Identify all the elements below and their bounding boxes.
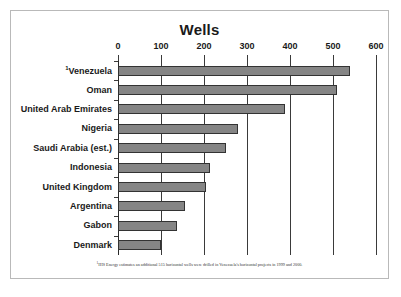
x-tick-label-400: 400	[282, 41, 297, 51]
gridline-600	[376, 61, 377, 255]
category-tick	[114, 61, 118, 62]
bar	[118, 104, 285, 114]
x-tick-mark-600	[376, 55, 377, 61]
bar	[118, 124, 238, 134]
bar	[118, 221, 177, 231]
bar	[118, 143, 226, 153]
bar-row: Indonesia	[118, 158, 376, 177]
x-tick-label-600: 600	[368, 41, 383, 51]
plot-area: 0100200300400500600 1VenezuelaOmanUnited…	[118, 61, 376, 255]
bar-rows: 1VenezuelaOmanUnited Arab EmiratesNigeri…	[118, 61, 376, 255]
category-footnote-marker: 1	[65, 65, 68, 71]
chart-footnote: 1IHS Energy estimates an additional 515 …	[11, 261, 388, 267]
bar-row: Argentina	[118, 197, 376, 216]
bar	[118, 201, 185, 211]
bar-row: Nigeria	[118, 119, 376, 138]
chart-title: Wells	[11, 21, 388, 38]
category-tick	[114, 177, 118, 178]
category-tick	[114, 80, 118, 81]
category-label: United Arab Emirates	[21, 105, 112, 114]
bar	[118, 182, 206, 192]
category-label: 1Venezuela	[65, 65, 112, 76]
footnote-text: IHS Energy estimates an additional 515 h…	[98, 262, 302, 267]
category-label: Argentina	[70, 202, 112, 211]
category-tick	[114, 197, 118, 198]
category-tick	[114, 216, 118, 217]
category-label: Denmark	[73, 241, 112, 250]
category-tick	[114, 139, 118, 140]
bar-row: United Arab Emirates	[118, 100, 376, 119]
x-tick-label-300: 300	[239, 41, 254, 51]
bar-row: United Kingdom	[118, 177, 376, 196]
bar-row: Oman	[118, 80, 376, 99]
bar-row: Saudi Arabia (est.)	[118, 139, 376, 158]
bar	[118, 85, 337, 95]
category-tick	[114, 100, 118, 101]
x-tick-label-500: 500	[325, 41, 340, 51]
category-label: Gabon	[84, 221, 113, 230]
bar	[118, 66, 350, 76]
category-label: Indonesia	[70, 163, 112, 172]
category-label: Saudi Arabia (est.)	[33, 144, 112, 153]
category-tick	[114, 119, 118, 120]
category-label: United Kingdom	[43, 183, 113, 192]
category-tick	[114, 236, 118, 237]
x-tick-label-200: 200	[196, 41, 211, 51]
bar-row: Gabon	[118, 216, 376, 235]
bar	[118, 240, 161, 250]
category-label: Oman	[86, 86, 112, 95]
category-label: Nigeria	[81, 124, 112, 133]
bar-row: 1Venezuela	[118, 61, 376, 80]
chart-figure: Wells 0100200300400500600 1VenezuelaOman…	[10, 10, 389, 279]
x-tick-label-100: 100	[153, 41, 168, 51]
category-tick	[114, 158, 118, 159]
x-tick-label-0: 0	[115, 41, 120, 51]
bar-row: Denmark	[118, 236, 376, 255]
bar	[118, 163, 210, 173]
